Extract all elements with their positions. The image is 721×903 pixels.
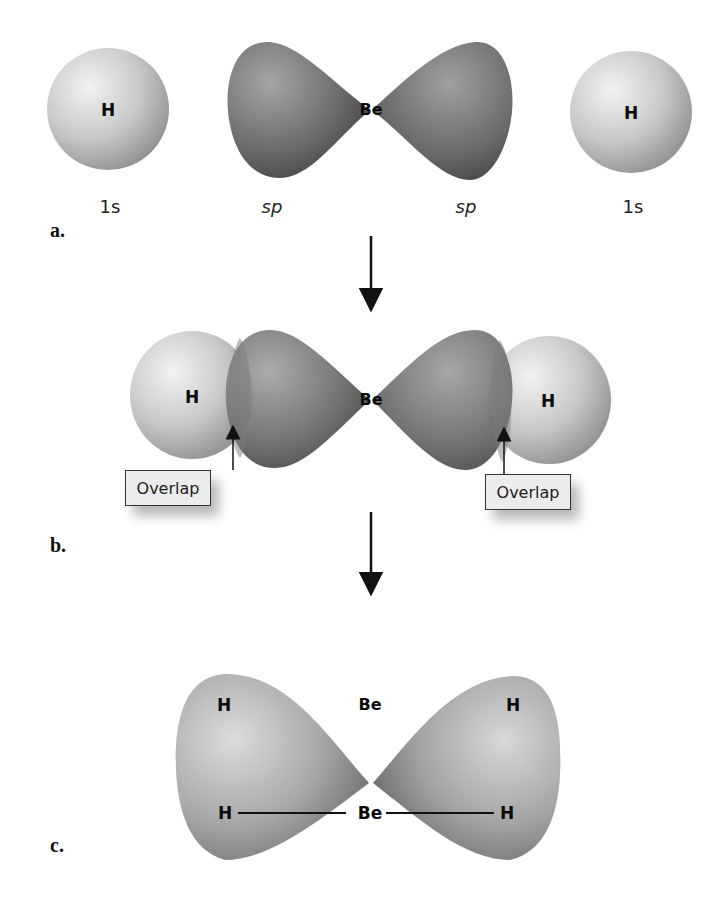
overlap-callout-left: Overlap — [125, 470, 211, 506]
atom-label-be-b: Be — [359, 392, 382, 408]
panel-label-c: c. — [50, 835, 64, 855]
bonding-orbital-right — [373, 676, 560, 860]
orbital-label-1s-left: 1s — [100, 198, 121, 216]
atom-label-h-left-c: H — [217, 697, 231, 714]
atom-label-be-a: Be — [359, 102, 382, 118]
be-sp-orbital-left — [227, 42, 370, 178]
bonding-orbital-left — [176, 674, 369, 860]
panel-label-a: a. — [50, 220, 65, 240]
bond-line-left — [238, 812, 346, 814]
formula-be: Be — [358, 805, 383, 822]
atom-label-h-left-b: H — [185, 389, 199, 406]
orbital-diagram — [0, 0, 721, 903]
overlap-callout-right: Overlap — [485, 474, 571, 510]
atom-label-h-left-a: H — [101, 102, 115, 119]
formula-h-left: H — [218, 805, 232, 822]
orbital-label-sp-left: sp — [262, 198, 283, 216]
atom-label-h-right-c: H — [506, 697, 520, 714]
orbital-label-1s-right: 1s — [623, 198, 644, 216]
orbital-label-sp-right: sp — [456, 198, 477, 216]
atom-label-be-c: Be — [358, 697, 381, 713]
atom-label-h-right-b: H — [541, 393, 555, 410]
panel-label-b: b. — [50, 535, 66, 555]
bond-line-right — [386, 812, 494, 814]
be-sp-orbital-right — [372, 42, 513, 180]
atom-label-h-right-a: H — [624, 105, 638, 122]
formula-h-right: H — [500, 805, 514, 822]
